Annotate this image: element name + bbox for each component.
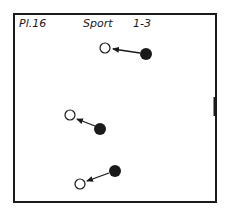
- arrow-icon: [77, 119, 95, 126]
- open-circle-icon: [65, 110, 75, 120]
- open-circle-icon: [100, 43, 110, 53]
- filled-circle-icon: [140, 48, 152, 60]
- arrow-icon: [113, 49, 140, 53]
- open-circle-icon: [75, 179, 85, 189]
- move-diagram: [0, 0, 230, 211]
- filled-circle-icon: [109, 165, 121, 177]
- move-3: [75, 165, 121, 189]
- arrow-icon: [87, 173, 109, 181]
- move-2: [65, 110, 106, 135]
- filled-circle-icon: [94, 123, 106, 135]
- move-1: [100, 43, 152, 60]
